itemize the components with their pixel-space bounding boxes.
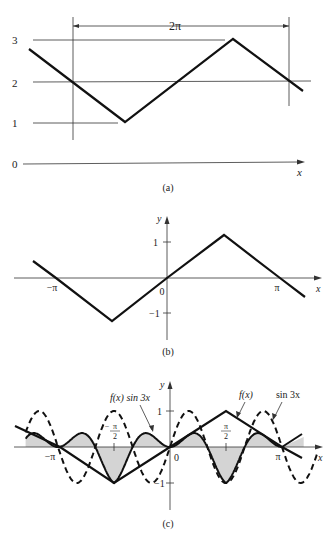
- y-tick-neg1-c: −1: [154, 478, 165, 489]
- span-arrow-left-icon: [73, 24, 79, 28]
- figure-canvas: 2π 3 2 1 0 x (a) y x −π 0 π 1 −1 (b): [0, 0, 336, 536]
- caption-a: (a): [162, 182, 173, 194]
- y-tick-2: 2: [12, 77, 18, 89]
- x-axis-label-a: x: [296, 166, 302, 178]
- y-axis-label-b: y: [156, 213, 162, 224]
- x-tick-half-pi-num: π: [224, 422, 228, 431]
- x-tick-pi-c: π: [275, 451, 280, 462]
- x-axis-arrow-icon: [297, 160, 305, 165]
- panel-a-labels: 2π 3 2 1 0 x (a): [12, 19, 302, 194]
- annotation-sin: sin 3x: [276, 389, 300, 400]
- y-tick-1-c: 1: [157, 406, 162, 417]
- y-axis-arrow-icon: [165, 216, 170, 224]
- x-tick-zero-c: 0: [174, 452, 179, 463]
- annotation-product: f(x) sin 3x: [110, 392, 151, 404]
- panel-b: [14, 216, 322, 340]
- y-tick-1: 1: [12, 117, 18, 129]
- span-label: 2π: [169, 19, 181, 33]
- x-tick-neg-half-pi-num: π: [113, 422, 117, 431]
- ref-line-2: [33, 81, 311, 82]
- x-axis-label-c: x: [317, 452, 323, 463]
- x-tick-neg-pi: −π: [47, 282, 58, 293]
- product-shaded-area: [26, 433, 304, 483]
- x-tick-half-pi-den: 2: [224, 432, 228, 441]
- y-tick-neg1-b: −1: [149, 308, 160, 319]
- panel-a: [23, 17, 311, 165]
- caption-b: (b): [162, 346, 174, 358]
- y-axis-label-c: y: [159, 379, 165, 390]
- x-tick-neg-half-pi-sign: −: [105, 422, 110, 431]
- y-tick-3: 3: [12, 34, 18, 46]
- y-tick-1-b: 1: [153, 237, 158, 248]
- x-axis-arrow-icon: [315, 445, 323, 450]
- triangle-wave-a: [29, 39, 303, 122]
- x-tick-zero: 0: [160, 286, 165, 297]
- x-tick-pi: π: [274, 282, 279, 293]
- panel-c-labels: y x f(x) sin 3x f(x) sin 3x −π − π 2 0 π…: [45, 379, 323, 530]
- x-axis-a: [23, 162, 299, 164]
- x-tick-neg-half-pi-den: 2: [113, 432, 117, 441]
- caption-c: (c): [162, 518, 173, 530]
- arrow-head-icon: [149, 425, 154, 432]
- y-tick-0: 0: [12, 158, 18, 170]
- x-axis-label-b: x: [315, 283, 321, 294]
- panel-b-labels: y x −π 0 π 1 −1 (b): [47, 213, 321, 358]
- y-axis-arrow-icon: [168, 381, 173, 389]
- x-axis-arrow-icon: [314, 276, 322, 281]
- x-tick-neg-pi-c: −π: [45, 451, 56, 462]
- span-arrow-right-icon: [283, 24, 289, 28]
- annotation-f: f(x): [239, 389, 254, 401]
- panel-c: [14, 381, 323, 510]
